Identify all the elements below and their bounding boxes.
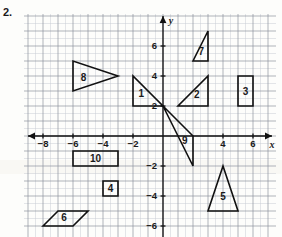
x-tick-label: −4 <box>98 138 110 149</box>
figure-label-5: 5 <box>220 191 226 202</box>
coordinate-graph: −8−6−4−246642−2−4−6xy 12345678910 <box>0 0 282 237</box>
x-tick-label: −2 <box>128 138 139 149</box>
figure-label-3: 3 <box>243 86 249 97</box>
figure-label-1: 1 <box>138 88 144 99</box>
worksheet-page: 2. −8−6−4−246642−2−4−6xy 12345678910 <box>0 0 282 237</box>
x-axis-name: x <box>269 139 275 150</box>
figure-label-4: 4 <box>108 183 114 194</box>
figure-label-8: 8 <box>81 72 87 83</box>
x-axis-arrow-left <box>28 133 35 140</box>
x-tick-label: 4 <box>220 138 226 149</box>
y-tick-label: −4 <box>146 190 158 201</box>
y-tick-label: 4 <box>152 70 158 81</box>
y-axis-arrow-up <box>160 16 167 23</box>
figure-label-10: 10 <box>90 153 102 164</box>
figure-label-7: 7 <box>198 46 204 57</box>
y-tick-label: −6 <box>146 220 157 231</box>
y-tick-label: −2 <box>146 160 157 171</box>
y-tick-label: 6 <box>152 40 157 51</box>
x-tick-label: 6 <box>250 138 255 149</box>
x-tick-label: −6 <box>68 138 79 149</box>
coordinate-plane-svg: −8−6−4−246642−2−4−6xy 12345678910 <box>0 0 282 237</box>
figure-label-6: 6 <box>61 212 67 223</box>
y-axis-name: y <box>168 15 174 26</box>
figure-label-2: 2 <box>194 89 200 100</box>
x-tick-label: −8 <box>38 138 49 149</box>
figure-label-9: 9 <box>182 135 188 146</box>
